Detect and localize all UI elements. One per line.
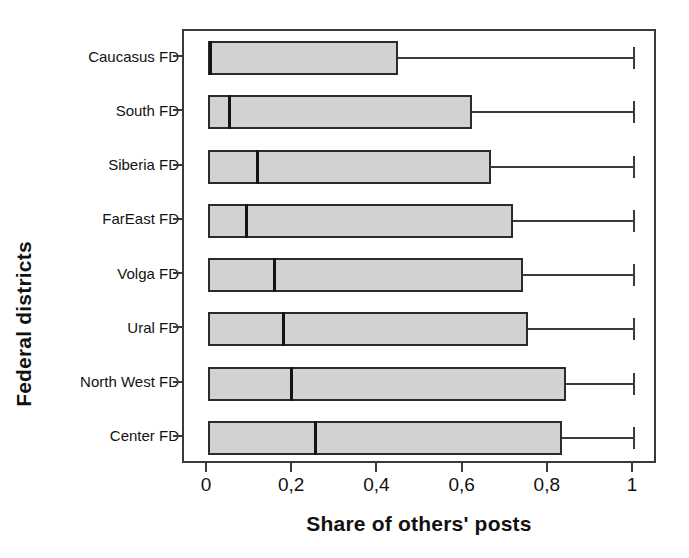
x-axis-tick-label: 0,2 <box>278 474 304 496</box>
y-axis-tick-mark <box>173 218 182 220</box>
box-iqr-rect <box>208 95 472 129</box>
box-iqr-rect <box>208 367 566 401</box>
y-axis-category-south-fd: South FD <box>0 101 182 119</box>
y-axis-category-volga-fd: Volga FD <box>0 264 182 282</box>
y-axis-tick-mark <box>173 109 182 111</box>
whisker-cap-upper <box>633 373 635 395</box>
whisker-cap-upper <box>633 156 635 178</box>
y-axis-tick-label: North West FD <box>80 373 182 390</box>
x-axis-tick-label: 1 <box>627 474 638 496</box>
plot-area <box>182 29 656 463</box>
median-line <box>209 41 212 75</box>
x-axis-tick-label: 0,4 <box>363 474 389 496</box>
y-axis-tick-mark <box>173 381 182 383</box>
box-plot-item <box>184 150 654 184</box>
y-axis-tick-label: Caucasus FD <box>88 48 182 65</box>
y-axis-category-center-fd: Center FD <box>0 427 182 445</box>
y-axis-category-fareast-fd: FarEast FD <box>0 210 182 228</box>
box-plot-item <box>184 421 654 455</box>
box-iqr-rect <box>208 204 513 238</box>
box-iqr-rect <box>208 258 523 292</box>
y-axis-tick-mark <box>173 164 182 166</box>
box-plot-item <box>184 258 654 292</box>
x-axis-tick-label: 0,6 <box>448 474 474 496</box>
y-axis-tick-label: Center FD <box>110 427 182 444</box>
box-plot-item <box>184 95 654 129</box>
y-axis-tick-mark <box>173 272 182 274</box>
y-axis-tick-mark <box>173 435 182 437</box>
y-axis-category-north-west-fd: North West FD <box>0 373 182 391</box>
whisker-cap-upper <box>633 318 635 340</box>
whisker-line-upper <box>513 220 634 222</box>
box-iqr-rect <box>208 312 528 346</box>
x-axis-tick-label: 0,8 <box>534 474 560 496</box>
box-plot-item <box>184 367 654 401</box>
whisker-cap-upper <box>633 264 635 286</box>
whisker-line-upper <box>491 166 634 168</box>
x-axis-tick-mark <box>631 463 633 472</box>
box-plot-item <box>184 41 654 75</box>
median-line <box>228 95 231 129</box>
x-axis-tick-mark <box>461 463 463 472</box>
box-plot-item <box>184 312 654 346</box>
x-axis-tick-mark <box>290 463 292 472</box>
median-line <box>256 150 259 184</box>
median-line <box>273 258 276 292</box>
median-line <box>282 312 285 346</box>
median-line <box>290 367 293 401</box>
whisker-line-upper <box>472 111 634 113</box>
box-iqr-rect <box>208 41 398 75</box>
x-axis-tick-mark <box>205 463 207 472</box>
y-axis-category-caucasus-fd: Caucasus FD <box>0 47 182 65</box>
x-axis-tick-mark <box>546 463 548 472</box>
y-axis-category-ural-fd: Ural FD <box>0 318 182 336</box>
y-axis-tick-mark <box>173 55 182 57</box>
box-plot-item <box>184 204 654 238</box>
median-line <box>314 421 317 455</box>
whisker-line-upper <box>566 383 634 385</box>
y-axis-category-siberia-fd: Siberia FD <box>0 156 182 174</box>
whisker-line-upper <box>523 274 634 276</box>
box-iqr-rect <box>208 421 562 455</box>
boxplot-chart: Federal districts Caucasus FDSouth FDSib… <box>0 0 689 558</box>
whisker-line-upper <box>398 57 634 59</box>
median-line <box>245 204 248 238</box>
y-axis-tick-mark <box>173 326 182 328</box>
x-axis-tick-label: 0 <box>201 474 212 496</box>
whisker-cap-upper <box>633 47 635 69</box>
whisker-cap-upper <box>633 427 635 449</box>
x-axis-title: Share of others' posts <box>182 512 656 536</box>
whisker-line-upper <box>562 437 634 439</box>
x-axis-tick-mark <box>375 463 377 472</box>
whisker-line-upper <box>528 328 635 330</box>
y-axis-tick-label: Siberia FD <box>108 156 182 173</box>
y-axis-tick-label: FarEast FD <box>102 210 182 227</box>
whisker-cap-upper <box>633 101 635 123</box>
box-iqr-rect <box>208 150 491 184</box>
whisker-cap-upper <box>633 210 635 232</box>
